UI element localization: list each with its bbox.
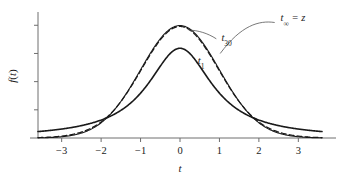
annotation-t-1: t1 xyxy=(198,55,205,71)
curve-1 xyxy=(38,48,322,131)
x-tick-label: −2 xyxy=(96,145,107,156)
x-tick-label: −1 xyxy=(135,145,146,156)
curve-inf xyxy=(38,26,322,138)
x-tick-label: −3 xyxy=(56,145,67,156)
chart-canvas: −3−2−10123 t f(t) t∞ = zt30t1 xyxy=(0,0,362,181)
x-tick-label: 1 xyxy=(217,145,222,156)
annotation-t-inf: t∞ = z xyxy=(281,12,306,28)
distribution-curves xyxy=(38,26,322,138)
axes-group xyxy=(30,12,336,138)
x-axis-ticks xyxy=(62,138,299,142)
curve-30 xyxy=(38,27,322,138)
x-axis-tick-labels: −3−2−10123 xyxy=(56,145,301,156)
t-distribution-chart: −3−2−10123 t f(t) t∞ = zt30t1 xyxy=(0,0,362,181)
x-tick-label: 3 xyxy=(296,145,301,156)
y-axis-ticks xyxy=(34,25,38,110)
y-axis-title: f(t) xyxy=(6,69,19,83)
x-tick-label: 2 xyxy=(256,145,261,156)
x-tick-label: 0 xyxy=(177,145,182,156)
annotation-t-30: t30 xyxy=(221,32,232,48)
x-axis-title: t xyxy=(178,162,182,174)
